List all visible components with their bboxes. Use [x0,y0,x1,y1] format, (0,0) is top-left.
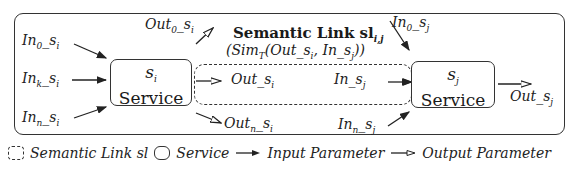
input-arrow [388,112,409,126]
output-label: Out_si [231,71,274,90]
filled-arrow-icon [235,148,261,158]
legend-input-parameter: Input Parameter [267,145,384,161]
legend: Semantic Link sl Service Input Parameter… [8,142,551,164]
input-label: Ink_si [22,70,59,89]
open-arrow-icon [390,148,416,158]
legend-semantic-link: Semantic Link sl [30,145,148,161]
output-arrow [196,28,213,44]
service-si-symbol: si [111,63,191,88]
input-label: Inn_sj [338,116,375,135]
legend-output-parameter: Output Parameter [422,145,551,161]
output-arrow [196,113,221,123]
dashed-box-icon [8,146,24,160]
input-arrow [74,107,106,118]
service-si: si Service [110,59,192,106]
output-label: Outn_si [224,115,273,134]
input-label: In0_sj [392,14,429,33]
service-sj-label: Service [412,90,494,110]
input-label: In0_si [22,32,59,51]
semantic-link-box [194,64,412,105]
service-si-label: Service [111,88,191,108]
legend-service: Service [176,145,229,161]
semantic-link-title: Semantic Link sli,j [233,24,384,44]
service-sj: sj Service [411,61,495,108]
similarity-formula: (SimT(Out_si, In_sj)) [226,42,365,61]
input-arrow [74,44,106,58]
service-sj-symbol: sj [412,65,494,90]
rounded-box-icon [154,146,170,160]
output-label: Out0_si [145,16,194,35]
input-label: In_sj [334,71,366,90]
output-label: Out_sj [510,88,553,107]
input-label: Inn_si [22,109,59,128]
